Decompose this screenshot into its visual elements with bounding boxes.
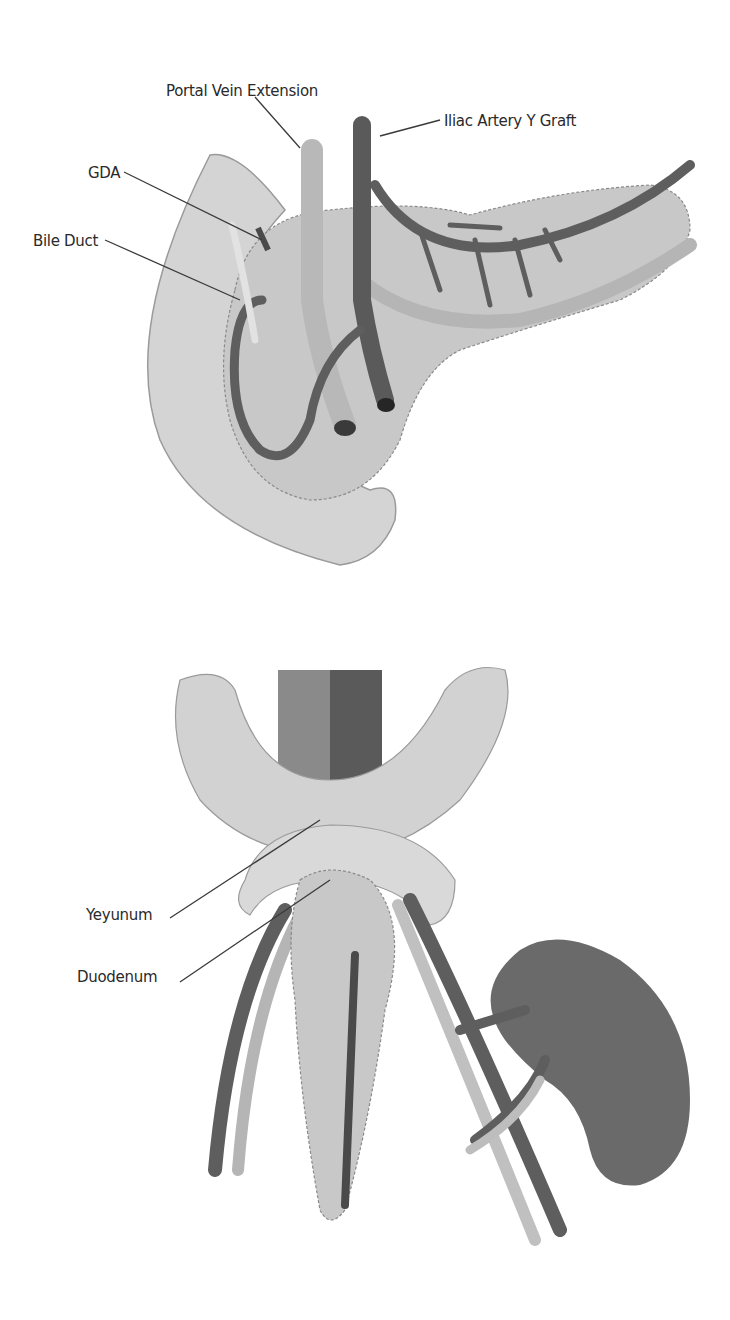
label-iliac-artery-y-graft: Iliac Artery Y Graft	[444, 112, 576, 130]
pancreas-graft-drawing	[0, 0, 730, 620]
pancreas-graft-illustration: Portal Vein Extension Iliac Artery Y Gra…	[0, 0, 730, 620]
label-gda: GDA	[88, 164, 120, 182]
label-duodenum: Duodenum	[77, 968, 157, 986]
label-yeyunum: Yeyunum	[86, 906, 152, 924]
implanted-graft-illustration: Yeyunum Duodenum	[0, 620, 730, 1320]
iliac-vessels-left	[215, 910, 285, 1170]
label-bile-duct: Bile Duct	[33, 232, 98, 250]
label-portal-vein-extension: Portal Vein Extension	[166, 82, 318, 100]
